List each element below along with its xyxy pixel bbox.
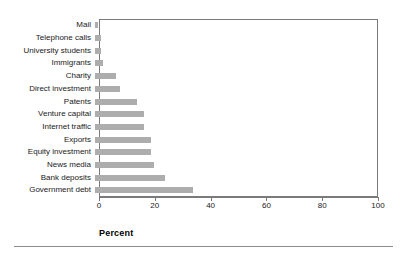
bar bbox=[95, 111, 144, 117]
bar-rows: MailTelephone callsUniversity studentsIm… bbox=[0, 19, 407, 197]
category-label: Venture capital bbox=[0, 110, 95, 118]
category-label: Charity bbox=[0, 72, 95, 80]
bar bbox=[95, 48, 101, 54]
bar-row: Mail bbox=[0, 19, 407, 32]
bar-row: News media bbox=[0, 159, 407, 172]
bar-row: Venture capital bbox=[0, 108, 407, 121]
bar-track bbox=[95, 108, 374, 121]
bar-track bbox=[95, 57, 374, 70]
bar-track bbox=[95, 83, 374, 96]
bar-row: Charity bbox=[0, 70, 407, 83]
x-tick-label: 40 bbox=[206, 202, 215, 210]
x-tick-label: 20 bbox=[150, 202, 159, 210]
bar-row: Patents bbox=[0, 95, 407, 108]
category-label: Patents bbox=[0, 98, 95, 106]
x-axis-title: Percent bbox=[99, 228, 133, 238]
category-label: Equity investment bbox=[0, 148, 95, 156]
bar bbox=[95, 99, 137, 105]
footer-divider bbox=[14, 246, 393, 247]
bar-row: Bank deposits bbox=[0, 171, 407, 184]
x-tick-label: 80 bbox=[318, 202, 327, 210]
bar-row: Immigrants bbox=[0, 57, 407, 70]
bar bbox=[95, 60, 103, 66]
bar-track bbox=[95, 171, 374, 184]
category-label: Immigrants bbox=[0, 59, 95, 67]
bar-track bbox=[95, 32, 374, 45]
bar-row: University students bbox=[0, 44, 407, 57]
bar-track bbox=[95, 184, 374, 197]
bar-track bbox=[95, 133, 374, 146]
category-label: Telephone calls bbox=[0, 34, 95, 42]
category-label: Bank deposits bbox=[0, 174, 95, 182]
category-label: Direct investment bbox=[0, 85, 95, 93]
bar-row: Equity investment bbox=[0, 146, 407, 159]
bar-track bbox=[95, 146, 374, 159]
bar bbox=[95, 162, 154, 168]
category-label: News media bbox=[0, 161, 95, 169]
bar bbox=[95, 124, 144, 130]
x-tick-label: 0 bbox=[97, 202, 101, 210]
category-label: University students bbox=[0, 47, 95, 55]
bar-row: Direct investment bbox=[0, 83, 407, 96]
bar-track bbox=[95, 19, 374, 32]
bar-row: Telephone calls bbox=[0, 32, 407, 45]
x-tick-label: 100 bbox=[371, 202, 384, 210]
bar bbox=[95, 73, 116, 79]
bar bbox=[95, 22, 98, 28]
bar-track bbox=[95, 95, 374, 108]
bar-row: Government debt bbox=[0, 184, 407, 197]
bar-track bbox=[95, 121, 374, 134]
x-axis-ticks: 020406080100 bbox=[99, 197, 378, 217]
bar-row: Internet traffic bbox=[0, 121, 407, 134]
bar-track bbox=[95, 159, 374, 172]
category-label: Internet traffic bbox=[0, 123, 95, 131]
bar-track bbox=[95, 70, 374, 83]
bar bbox=[95, 35, 101, 41]
bar-track bbox=[95, 44, 374, 57]
category-label: Exports bbox=[0, 136, 95, 144]
category-label: Mail bbox=[0, 21, 95, 29]
bar bbox=[95, 149, 151, 155]
bar-row: Exports bbox=[0, 133, 407, 146]
bar bbox=[95, 86, 120, 92]
x-tick-label: 60 bbox=[262, 202, 271, 210]
bar bbox=[95, 175, 165, 181]
bar bbox=[95, 137, 151, 143]
bar bbox=[95, 187, 193, 193]
bar-chart-figure: MailTelephone callsUniversity studentsIm… bbox=[0, 0, 407, 254]
category-label: Government debt bbox=[0, 186, 95, 194]
